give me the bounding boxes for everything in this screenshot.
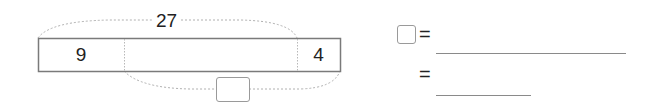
answer-line-1[interactable] <box>436 53 626 54</box>
equation-unknown-box[interactable] <box>397 25 416 44</box>
equals-sign-2: = <box>419 64 431 84</box>
segment-3-label: 4 <box>297 45 340 65</box>
answer-line-2[interactable] <box>436 95 531 96</box>
equals-sign-1: = <box>419 24 431 44</box>
segment-1-label: 9 <box>38 45 124 65</box>
unknown-answer-box[interactable] <box>216 77 250 102</box>
total-label: 27 <box>153 11 180 31</box>
